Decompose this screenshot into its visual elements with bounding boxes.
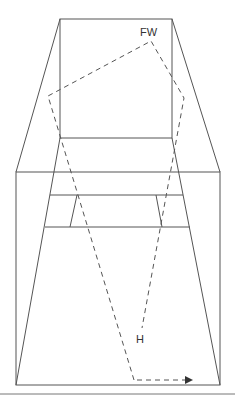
label-h: H	[136, 334, 144, 345]
diagram-canvas	[0, 0, 235, 400]
ball-path	[48, 41, 184, 380]
label-fw: FW	[140, 27, 157, 38]
right-ceiling-edge	[172, 19, 220, 172]
right-floor-edge	[172, 138, 220, 385]
left-service-box-line	[70, 195, 77, 227]
left-ceiling-edge	[16, 19, 60, 172]
arrow-head-icon	[185, 376, 193, 384]
left-floor-edge	[16, 138, 60, 385]
front-frame	[16, 172, 220, 385]
